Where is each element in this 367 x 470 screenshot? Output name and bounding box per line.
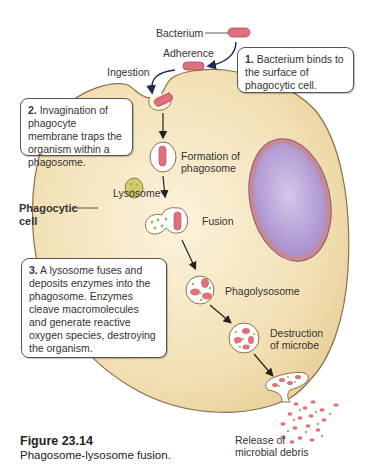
figure-caption: Phagosome-lysosome fusion. (20, 449, 171, 461)
label-release-line2: microbial debris (235, 446, 309, 458)
microbial-debris (281, 400, 339, 444)
bacterium-adhered (183, 62, 204, 70)
bacterium-free (228, 28, 250, 37)
phagosome (150, 142, 176, 172)
label-formation-line1: Formation of (181, 150, 240, 162)
label-ingestion: Ingestion (107, 66, 150, 78)
label-formation-line2: phagosome (181, 162, 236, 174)
label-bacterium: Bacterium (156, 27, 203, 39)
figure-number: Figure 23.14 (20, 434, 93, 448)
label-lysosome: Lysosome (113, 187, 160, 199)
label-phagocytic-line1: Phagocytic (19, 202, 78, 214)
step-2-callout: 2. Invagination of phagocyte membrane tr… (20, 98, 133, 156)
step-2-number: 2. (28, 104, 37, 116)
step-1-callout: 1. Bacterium binds to the surface of pha… (237, 47, 354, 93)
step-3-text: A lysosome fuses and deposits enzymes in… (29, 264, 156, 354)
label-fusion: Fusion (202, 215, 234, 227)
label-phagocytic-line2: cell (19, 215, 37, 227)
label-release-line1: Release of (235, 434, 285, 446)
step-1-number: 1. (245, 53, 254, 65)
label-destruction-line2: of microbe (270, 339, 319, 351)
step-3-number: 3. (29, 264, 38, 276)
step-1-text: Bacterium binds to the surface of phagoc… (245, 53, 344, 91)
step-3-callout: 3. A lysosome fuses and deposits enzymes… (21, 258, 167, 358)
phagolysosome (186, 276, 214, 304)
label-adherence: Adherence (163, 47, 214, 59)
label-phagolysosome: Phagolysosome (225, 285, 300, 297)
label-destruction-line1: Destruction (270, 327, 323, 339)
destruction-vesicle (229, 323, 259, 353)
